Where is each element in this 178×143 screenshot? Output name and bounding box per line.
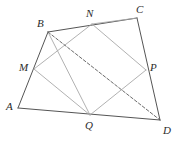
segment-PQ — [90, 70, 146, 115]
vertex-label-n: N — [86, 8, 93, 19]
segment-NP — [92, 24, 146, 70]
geometry-figure: ABCDMNPQ — [0, 0, 178, 143]
segment-BQ — [48, 32, 90, 115]
vertex-label-m: M — [19, 62, 28, 73]
vertex-label-d: D — [163, 125, 171, 136]
vertex-label-q: Q — [85, 120, 93, 131]
vertex-label-a: A — [6, 101, 13, 112]
vertex-label-p: P — [150, 62, 157, 73]
vertex-label-b: B — [37, 18, 44, 29]
vertex-label-c: C — [136, 4, 143, 15]
segment-NC — [92, 18, 137, 24]
segment-QM — [34, 69, 90, 115]
